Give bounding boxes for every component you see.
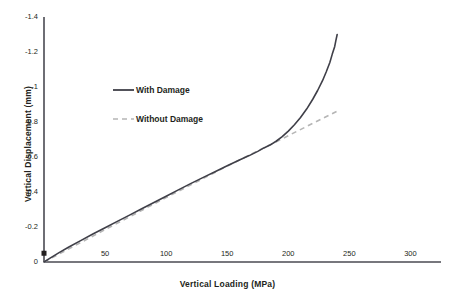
y-tick-label: -0.2 <box>12 222 38 231</box>
x-tick-label: 150 <box>212 249 242 258</box>
chart-series-group <box>44 35 337 263</box>
y-tick-label: -0.8 <box>12 117 38 126</box>
y-tick-label: -0.4 <box>12 187 38 196</box>
x-tick-label: 200 <box>273 249 303 258</box>
x-tick-label: 250 <box>334 249 364 258</box>
y-tick-label: -1.2 <box>12 47 38 56</box>
y-tick-label: -1 <box>12 82 38 91</box>
x-tick-label: 100 <box>151 249 181 258</box>
y-tick-label: -1.4 <box>12 12 38 21</box>
legend-label-with-damage: With Damage <box>136 85 190 95</box>
legend-sample-lines <box>113 90 134 119</box>
x-tick-label: 300 <box>395 249 425 258</box>
series-line-without-damage <box>44 111 337 262</box>
y-tick-label: -0.6 <box>12 152 38 161</box>
origin-point-marker <box>42 251 47 256</box>
x-axis-title: Vertical Loading (MPa) <box>0 279 455 289</box>
legend-label-without-damage: Without Damage <box>136 114 203 124</box>
chart-figure: With Damage Without Damage Vertical Load… <box>0 0 455 299</box>
series-line-with-damage <box>44 35 337 263</box>
y-tick-label: 0 <box>12 257 38 266</box>
chart-axes <box>44 17 441 262</box>
origin-marker-group <box>42 251 47 256</box>
x-tick-label: 50 <box>90 249 120 258</box>
